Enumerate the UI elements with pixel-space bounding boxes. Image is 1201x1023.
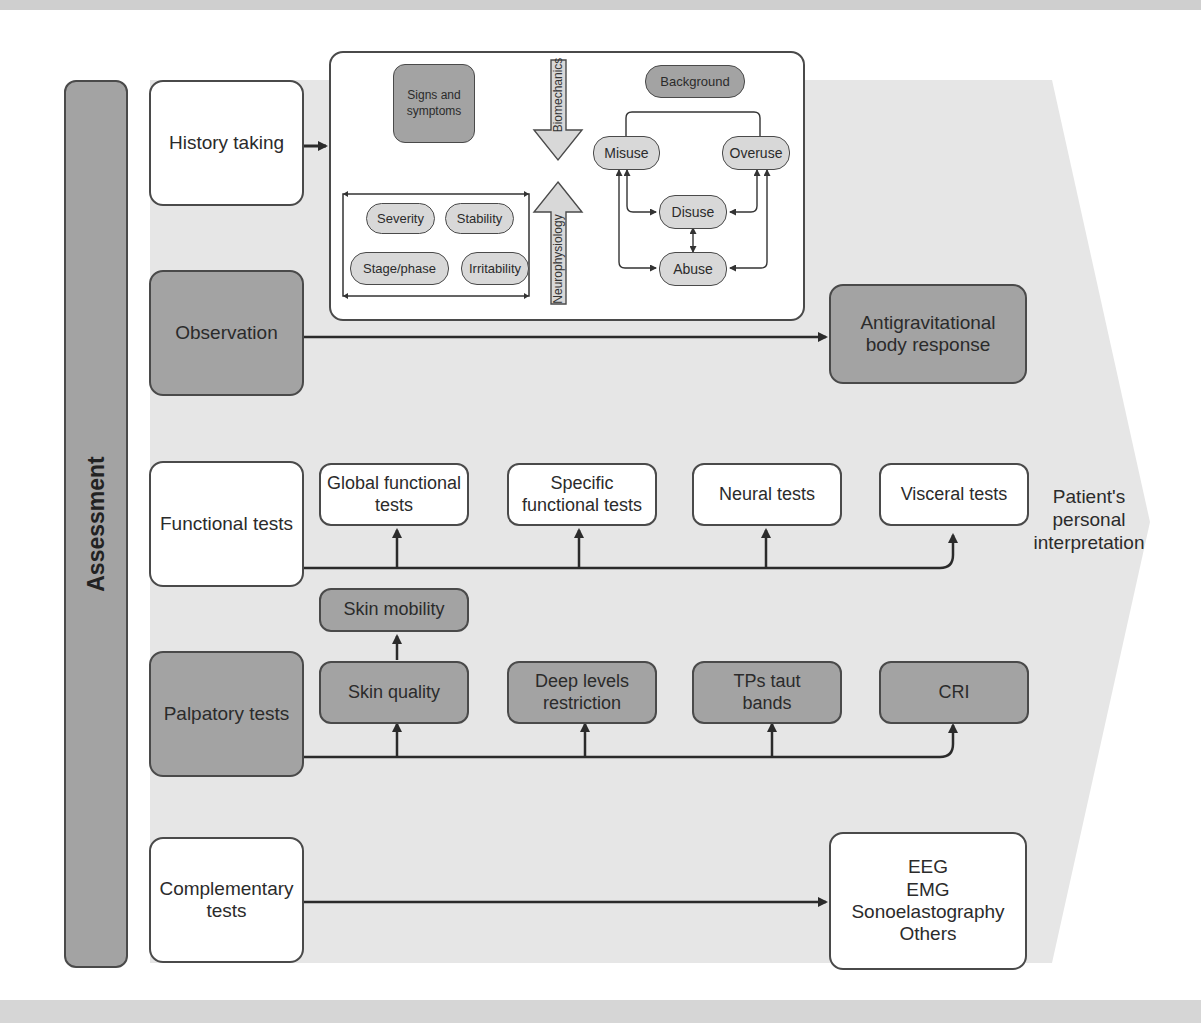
antigravitational-label: Antigravitational body response xyxy=(843,312,1013,357)
visceral-tests-box: Visceral tests xyxy=(879,463,1029,526)
global-functional-tests-box: Global functional tests xyxy=(319,463,469,526)
deep-levels-restriction-box: Deep levels restriction xyxy=(507,661,657,724)
signs-symptoms-box: Signs and symptoms xyxy=(393,64,475,143)
complementary-methods-box: EEG EMG Sonoelastography Others xyxy=(829,832,1027,970)
abuse-label: Abuse xyxy=(673,261,713,277)
neurophysiology-label: Neurophysiology xyxy=(551,209,565,309)
functional-tests-box: Functional tests xyxy=(149,461,304,587)
assessment-label: Assessment xyxy=(83,456,110,592)
specific-functional-tests-box: Specific functional tests xyxy=(507,463,657,526)
history-taking-box: History taking xyxy=(149,80,304,206)
stability-label: Stability xyxy=(457,211,503,226)
disuse-pill: Disuse xyxy=(659,195,727,229)
palpatory-tests-label: Palpatory tests xyxy=(164,703,290,725)
palpatory-tests-box: Palpatory tests xyxy=(149,651,304,777)
sonoelastography-label: Sonoelastography xyxy=(851,901,1004,923)
overuse-pill: Overuse xyxy=(722,136,790,170)
biomechanics-label: Biomechanics xyxy=(551,57,565,133)
cri-label: CRI xyxy=(939,682,970,703)
complementary-tests-box: Complementary tests xyxy=(149,837,304,963)
others-label: Others xyxy=(899,923,956,945)
global-functional-tests-label: Global functional tests xyxy=(324,473,464,515)
misuse-label: Misuse xyxy=(604,145,648,161)
eeg-label: EEG xyxy=(908,856,948,878)
skin-quality-box: Skin quality xyxy=(319,661,469,724)
signs-symptoms-label: Signs and symptoms xyxy=(404,88,464,119)
deep-levels-restriction-label: Deep levels restriction xyxy=(522,671,642,713)
history-taking-label: History taking xyxy=(169,132,284,154)
cri-box: CRI xyxy=(879,661,1029,724)
neural-tests-box: Neural tests xyxy=(692,463,842,526)
abuse-pill: Abuse xyxy=(659,252,727,286)
neural-tests-label: Neural tests xyxy=(719,484,815,505)
skin-quality-label: Skin quality xyxy=(348,682,440,703)
complementary-tests-label: Complementary tests xyxy=(151,878,302,923)
stability-pill: Stability xyxy=(445,203,514,234)
irritability-pill: Irritability xyxy=(461,252,529,285)
disuse-label: Disuse xyxy=(672,204,715,220)
visceral-tests-label: Visceral tests xyxy=(901,484,1008,505)
functional-tests-label: Functional tests xyxy=(160,513,293,535)
stage-phase-label: Stage/phase xyxy=(363,261,436,276)
patient-interpretation-text: Patient's personal interpretation xyxy=(1030,486,1148,554)
severity-label: Severity xyxy=(377,211,424,226)
specific-functional-tests-label: Specific functional tests xyxy=(512,473,652,515)
antigravitational-box: Antigravitational body response xyxy=(829,284,1027,384)
overuse-label: Overuse xyxy=(730,145,783,161)
background-label: Background xyxy=(660,74,729,89)
observation-label: Observation xyxy=(175,322,277,344)
irritability-label: Irritability xyxy=(469,261,521,276)
skin-mobility-box: Skin mobility xyxy=(319,588,469,632)
tps-taut-bands-box: TPs taut bands xyxy=(692,661,842,724)
tps-taut-bands-label: TPs taut bands xyxy=(717,671,817,713)
background-pill: Background xyxy=(645,65,745,98)
misuse-pill: Misuse xyxy=(593,136,660,170)
observation-box: Observation xyxy=(149,270,304,396)
stage-phase-pill: Stage/phase xyxy=(350,252,449,285)
emg-label: EMG xyxy=(906,879,949,901)
severity-pill: Severity xyxy=(366,203,435,234)
skin-mobility-label: Skin mobility xyxy=(343,599,444,620)
